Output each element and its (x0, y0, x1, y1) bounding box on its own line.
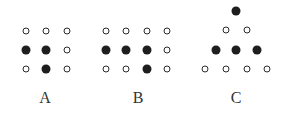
open-dot-icon (23, 28, 30, 35)
filled-dot-icon (42, 46, 51, 55)
filled-dot-icon (143, 46, 152, 55)
filled-dot-icon (232, 7, 241, 16)
open-dot-icon (244, 27, 251, 34)
filled-dot-icon (22, 46, 31, 55)
open-dot-icon (223, 66, 230, 73)
open-dot-icon (202, 66, 209, 73)
filled-dot-icon (253, 46, 262, 55)
filled-dot-icon (232, 46, 241, 55)
open-dot-icon (103, 66, 110, 73)
open-dot-icon (223, 27, 230, 34)
open-dot-icon (64, 66, 71, 73)
open-dot-icon (123, 66, 130, 73)
filled-dot-icon (212, 46, 221, 55)
open-dot-icon (103, 28, 110, 35)
filled-dot-icon (143, 65, 152, 74)
open-dot-icon (264, 66, 271, 73)
open-dot-icon (23, 66, 30, 73)
open-dot-icon (164, 66, 171, 73)
open-dot-icon (164, 47, 171, 54)
figure-label-b: B (133, 89, 144, 107)
open-dot-icon (164, 28, 171, 35)
open-dot-icon (64, 28, 71, 35)
open-dot-icon (144, 28, 151, 35)
open-dot-icon (64, 47, 71, 54)
figure-label-c: C (231, 89, 242, 107)
open-dot-icon (123, 28, 130, 35)
filled-dot-icon (102, 46, 111, 55)
filled-dot-icon (42, 65, 51, 74)
filled-dot-icon (122, 46, 131, 55)
open-dot-icon (43, 28, 50, 35)
figure-label-a: A (39, 89, 51, 107)
open-dot-icon (244, 66, 251, 73)
